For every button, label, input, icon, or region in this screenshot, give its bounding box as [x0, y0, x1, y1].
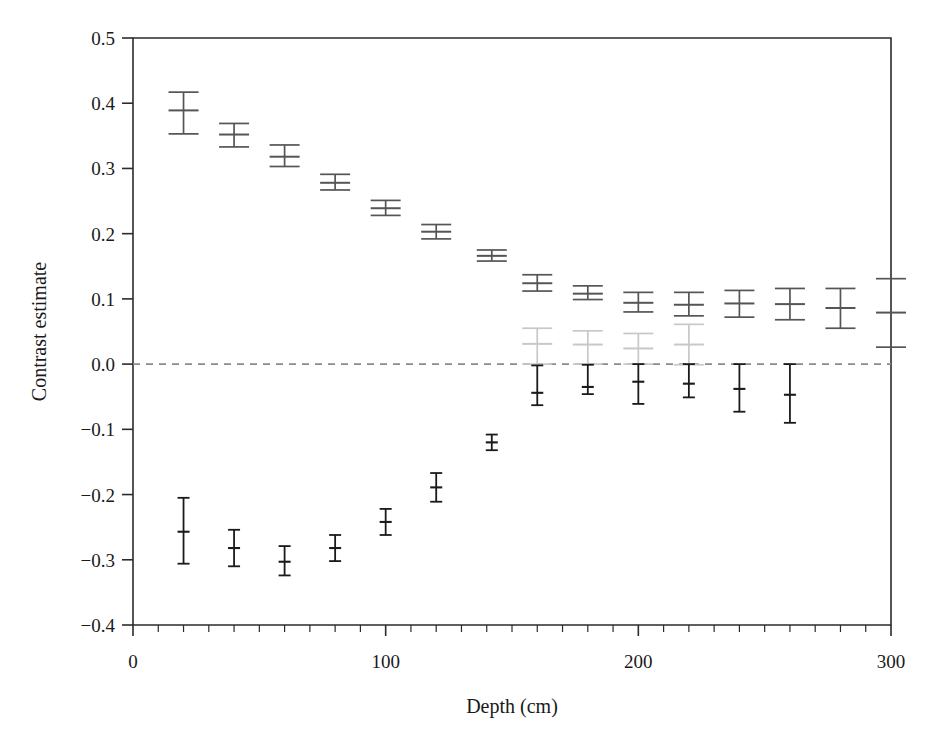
y-axis-tick-label: −0.3: [81, 550, 115, 571]
data-point: [178, 498, 190, 564]
data-point: [522, 328, 552, 364]
data-point: [522, 275, 552, 291]
data-point: [623, 333, 653, 364]
data-point: [632, 364, 644, 404]
data-point: [421, 225, 451, 239]
data-point: [573, 331, 603, 364]
chart-plot: 0100200300−0.4−0.3−0.2−0.10.00.10.20.30.…: [0, 0, 927, 736]
y-axis-tick-label: 0.1: [91, 289, 115, 310]
data-point: [320, 174, 350, 190]
y-axis-tick-label: −0.4: [81, 615, 116, 636]
series-lower-dark-series: [178, 364, 796, 575]
y-axis-tick-label: −0.2: [81, 485, 115, 506]
data-point: [674, 292, 704, 315]
y-axis-tick-label: 0.0: [91, 354, 115, 375]
x-axis-tick-label: 0: [128, 651, 138, 672]
x-axis-tick-label: 200: [624, 651, 653, 672]
data-point: [573, 286, 603, 300]
data-point: [270, 145, 300, 167]
data-point: [582, 365, 594, 394]
y-axis-tick-label: 0.5: [91, 28, 115, 49]
data-point: [477, 250, 507, 261]
data-point: [825, 288, 855, 328]
data-point: [219, 123, 249, 146]
data-point: [380, 509, 392, 535]
data-point: [430, 473, 442, 502]
data-point: [733, 364, 745, 412]
y-axis-title: Contrast estimate: [28, 262, 50, 402]
data-point: [279, 546, 291, 575]
data-point: [228, 530, 240, 567]
y-axis-tick-label: 0.2: [91, 224, 115, 245]
y-axis-tick-label: 0.3: [91, 158, 115, 179]
data-point: [623, 292, 653, 312]
data-series-group: [169, 92, 906, 575]
y-axis-tick-label: 0.4: [91, 93, 115, 114]
series-upper-series: [169, 92, 906, 347]
x-axis-tick-label: 300: [877, 651, 906, 672]
data-point: [674, 324, 704, 364]
data-point: [775, 288, 805, 319]
figure-container: 0100200300−0.4−0.3−0.2−0.10.00.10.20.30.…: [0, 0, 927, 736]
data-point: [169, 92, 199, 134]
data-point: [784, 364, 796, 423]
data-point: [531, 365, 543, 405]
data-point: [683, 364, 695, 397]
plot-frame: [133, 38, 891, 625]
data-point: [724, 290, 754, 317]
series-light-gray-series: [522, 324, 704, 364]
data-point: [371, 200, 401, 215]
data-point: [329, 535, 341, 561]
y-axis-tick-label: −0.1: [81, 419, 115, 440]
axes-group: 0100200300−0.4−0.3−0.2−0.10.00.10.20.30.…: [81, 28, 906, 672]
data-point: [486, 435, 498, 451]
x-axis-title: Depth (cm): [466, 695, 558, 718]
x-axis-tick-label: 100: [371, 651, 400, 672]
data-point: [876, 279, 906, 347]
